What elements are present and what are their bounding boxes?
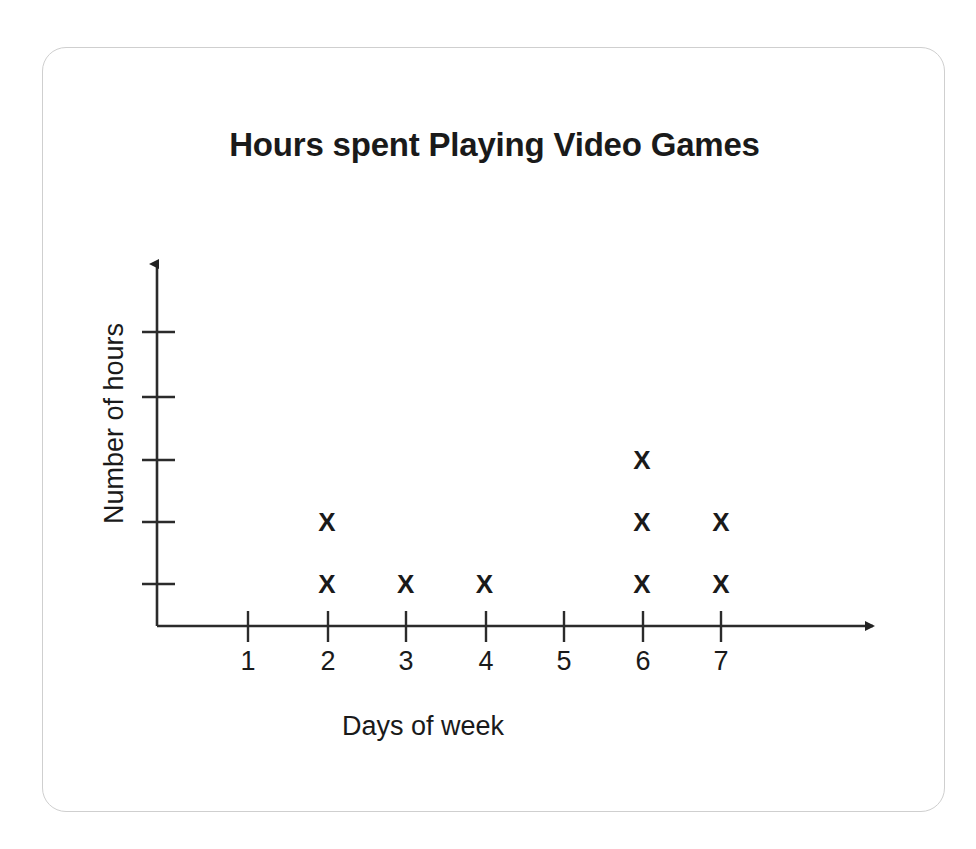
x-tick-label-1: 1 bbox=[228, 646, 268, 677]
x-axis-label: Days of week bbox=[43, 711, 803, 742]
axes-svg bbox=[43, 48, 946, 813]
data-mark-day2-level1: X bbox=[312, 569, 342, 599]
x-tick-label-5: 5 bbox=[544, 646, 584, 677]
x-tick-label-2: 2 bbox=[308, 646, 348, 677]
data-mark-day6-level3: X bbox=[627, 445, 657, 475]
y-axis-ticks bbox=[142, 332, 175, 584]
data-mark-day4-level1: X bbox=[469, 569, 499, 599]
data-mark-day3-level1: X bbox=[391, 569, 421, 599]
x-tick-label-3: 3 bbox=[386, 646, 426, 677]
x-tick-label-6: 6 bbox=[623, 646, 663, 677]
y-axis-label: Number of hours bbox=[99, 279, 130, 569]
data-mark-day6-level1: X bbox=[627, 569, 657, 599]
plot-area: Number of hours Days of week 1 2 3 4 5 6… bbox=[43, 48, 946, 813]
x-tick-label-7: 7 bbox=[701, 646, 741, 677]
data-mark-day7-level1: X bbox=[706, 569, 736, 599]
data-mark-day2-level2: X bbox=[312, 507, 342, 537]
data-mark-day7-level2: X bbox=[706, 507, 736, 537]
x-tick-label-4: 4 bbox=[466, 646, 506, 677]
chart-card: Hours spent Playing Video Games bbox=[42, 47, 945, 812]
data-mark-day6-level2: X bbox=[627, 507, 657, 537]
